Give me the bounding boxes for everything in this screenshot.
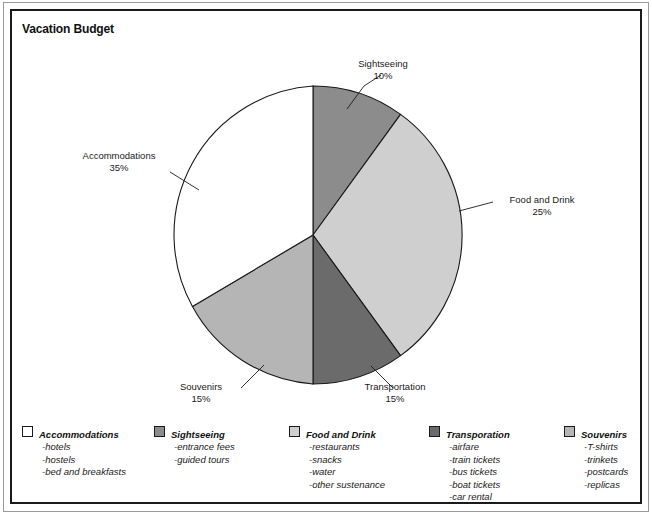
- legend-item: -hostels: [39, 454, 126, 467]
- legend-heading-souvenirs: Souvenirs: [581, 429, 627, 440]
- chart-screenshot: Vacation Budget Sightseeing 10%: [0, 0, 652, 515]
- legend-entry-souvenirs[interactable]: Souvenirs -T-shirts -trinkets -postcards…: [564, 425, 634, 491]
- legend-item: -entrance fees: [171, 441, 235, 454]
- legend-heading-food-and-drink: Food and Drink: [306, 429, 376, 440]
- legend-item: -replicas: [581, 479, 628, 492]
- legend-item: -bus tickets: [446, 466, 510, 479]
- legend-item: -snacks: [306, 454, 385, 467]
- legend-entry-sightseeing[interactable]: Sightseeing -entrance fees -guided tours: [154, 425, 289, 466]
- legend-swatch-transportation: [429, 426, 440, 437]
- legend-swatch-souvenirs: [564, 426, 575, 437]
- legend-item: -T-shirts: [581, 441, 628, 454]
- legend-swatch-sightseeing: [154, 426, 165, 437]
- legend-entry-transportation[interactable]: Transporation -airfare -train tickets -b…: [429, 425, 564, 504]
- legend-item: -boat tickets: [446, 479, 510, 492]
- legend-swatch-accommodations: [22, 426, 33, 437]
- legend-heading-sightseeing: Sightseeing: [171, 429, 225, 440]
- legend-item: -water: [306, 466, 385, 479]
- legend-heading-accommodations: Accommodations: [39, 429, 119, 440]
- legend-item: -trinkets: [581, 454, 628, 467]
- legend-item: -hotels: [39, 441, 126, 454]
- legend-item: -train tickets: [446, 454, 510, 467]
- legend-heading-transportation: Transporation: [446, 429, 510, 440]
- legend-entry-accommodations[interactable]: Accommodations -hotels -hostels -bed and…: [22, 425, 154, 479]
- legend-item: -postcards: [581, 466, 628, 479]
- legend: Accommodations -hotels -hostels -bed and…: [22, 425, 634, 495]
- legend-item: -guided tours: [171, 454, 235, 467]
- legend-item: -other sustenance: [306, 479, 385, 492]
- legend-item: -car rental: [446, 491, 510, 504]
- page-title: Vacation Budget: [22, 21, 114, 36]
- legend-item: -restaurants: [306, 441, 385, 454]
- legend-entry-food-and-drink[interactable]: Food and Drink -restaurants -snacks -wat…: [289, 425, 429, 491]
- legend-item: -airfare: [446, 441, 510, 454]
- legend-item: -bed and breakfasts: [39, 466, 126, 479]
- legend-swatch-food-and-drink: [289, 426, 300, 437]
